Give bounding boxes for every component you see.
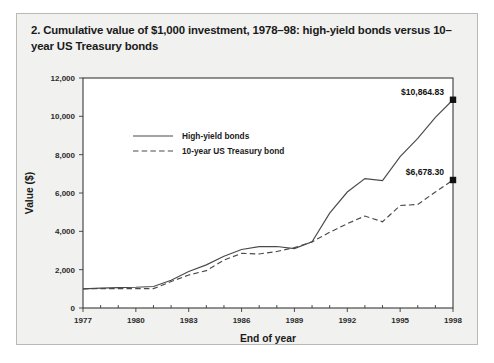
y-axis-tick-label: 4,000 xyxy=(55,227,76,236)
y-axis-tick-label: 2,000 xyxy=(55,266,76,275)
chart-plot-area: 02,0004,0006,0008,00010,00012,0001977198… xyxy=(17,14,479,346)
x-axis-title: End of year xyxy=(240,333,296,344)
chart-card: 2. Cumulative value of $1,000 investment… xyxy=(16,13,478,345)
x-axis-tick-label: 1989 xyxy=(286,316,304,325)
legend-label-2: 10-year US Treasury bond xyxy=(182,146,284,156)
y-axis-tick-label: 6,000 xyxy=(55,189,76,198)
x-axis-tick-label: 1983 xyxy=(180,316,198,325)
series-endpoint-marker-2 xyxy=(450,177,456,183)
x-axis-tick-label: 1977 xyxy=(74,316,92,325)
y-axis-title: Value ($) xyxy=(24,172,35,214)
endpoint-value-label-2: $6,678.30 xyxy=(406,167,444,177)
plot-background xyxy=(83,78,453,308)
x-axis-tick-label: 1980 xyxy=(127,316,145,325)
x-axis-tick-label: 1992 xyxy=(338,316,356,325)
x-axis-tick-label: 1995 xyxy=(391,316,409,325)
endpoint-value-label-1: $10,864.83 xyxy=(401,87,444,97)
y-axis-tick-label: 8,000 xyxy=(55,151,76,160)
y-axis-tick-label: 0 xyxy=(71,304,76,313)
x-axis-tick-label: 1986 xyxy=(233,316,251,325)
y-axis-tick-label: 10,000 xyxy=(51,112,76,121)
series-endpoint-marker-1 xyxy=(450,97,456,103)
legend-label-1: High-yield bonds xyxy=(182,131,250,141)
line-chart-svg: 02,0004,0006,0008,00010,00012,0001977198… xyxy=(17,14,479,346)
x-axis-tick-label: 1998 xyxy=(444,316,462,325)
y-axis-tick-label: 12,000 xyxy=(51,74,76,83)
